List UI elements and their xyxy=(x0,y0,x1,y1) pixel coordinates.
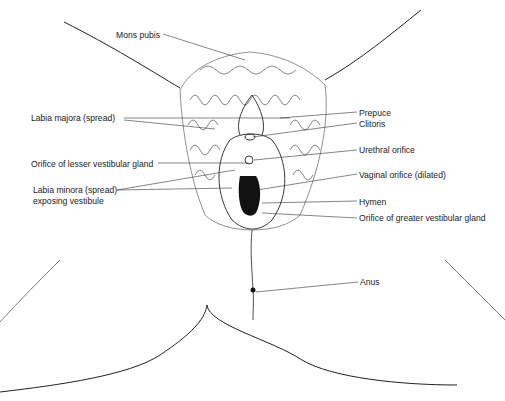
label-clitoris: Clitoris xyxy=(359,119,385,129)
label-hymen: Hymen xyxy=(359,197,386,207)
leader-hymen xyxy=(262,201,357,203)
right-buttock-line xyxy=(207,305,457,385)
leader-mons xyxy=(163,34,245,60)
label-labia-majora: Labia majora (spread) xyxy=(31,113,115,123)
label-anus: Anus xyxy=(360,277,380,287)
leader-clitoris xyxy=(253,123,357,137)
leader-labia-minora-2 xyxy=(117,188,232,190)
left-buttock-line xyxy=(0,305,207,392)
label-vaginal-orifice: Vaginal orifice (dilated) xyxy=(359,170,446,180)
leader-vaginal xyxy=(257,174,357,190)
right-thigh-line xyxy=(325,10,421,80)
label-orifice-lesser-vestibular-gland: Orifice of lesser vestibular gland xyxy=(31,159,153,169)
leader-prepuce xyxy=(280,112,357,118)
label-orifice-greater-vestibular-gland: Orifice of greater vestibular gland xyxy=(359,213,486,223)
label-urethral-orifice: Urethral orifice xyxy=(359,145,415,155)
leader-labia-majora-2 xyxy=(124,120,215,129)
leader-greater-gland xyxy=(262,213,357,218)
label-labia-minora: Labia minora (spread) xyxy=(33,185,117,195)
leader-urethral xyxy=(254,150,357,160)
vaginal-orifice-shape xyxy=(239,176,260,216)
label-exposing-vestibule: exposing vestibule xyxy=(33,196,104,206)
anus-shape xyxy=(251,288,256,293)
leader-anus xyxy=(256,282,358,292)
leader-labia-minora-1 xyxy=(117,170,235,190)
label-mons-pubis: Mons pubis xyxy=(116,30,160,40)
label-prepuce: Prepuce xyxy=(359,108,391,118)
